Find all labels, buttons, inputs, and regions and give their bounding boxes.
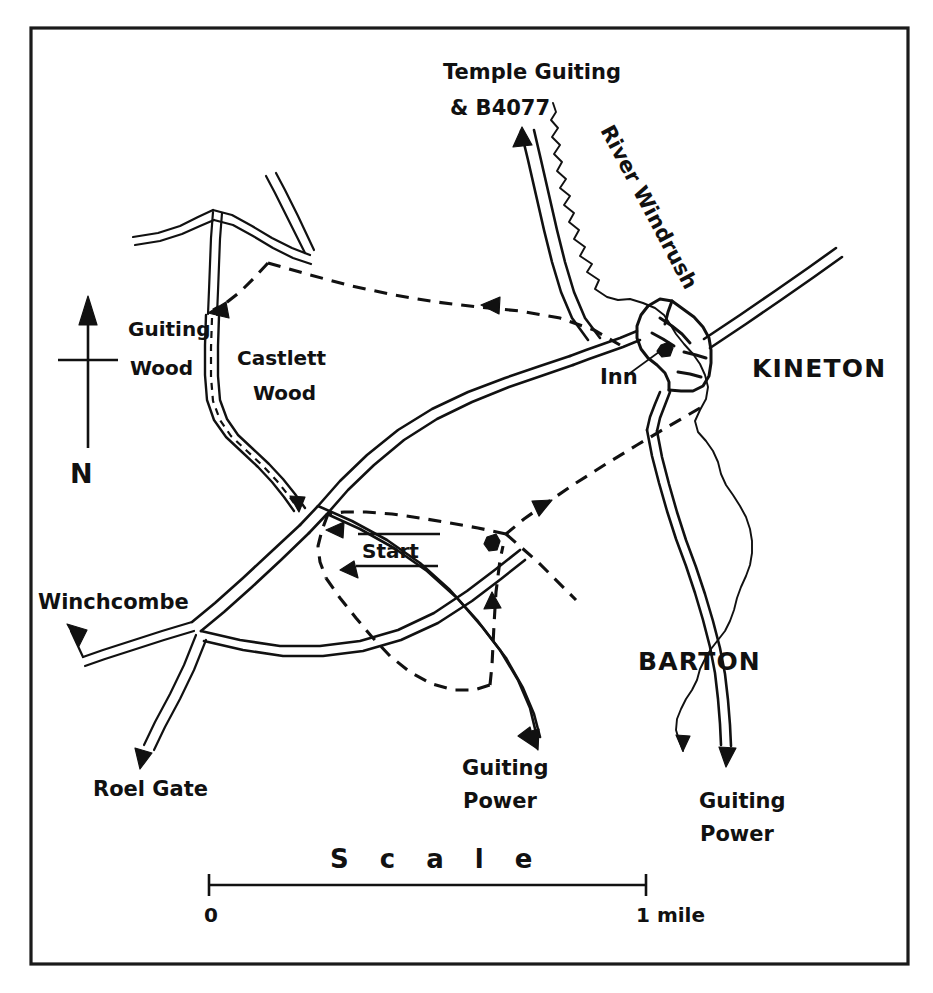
scale-label-zero: 0 bbox=[204, 903, 218, 927]
map-canvas: N Start S c a l e 0 1 mile Temple Guitin… bbox=[0, 0, 933, 993]
label-river-windrush: River Windrush bbox=[596, 121, 703, 293]
label-temple-guiting: Temple Guiting bbox=[443, 60, 621, 84]
start-marker: Start bbox=[356, 534, 440, 566]
route-arrow-start-south bbox=[340, 561, 358, 578]
road-southwest-junction bbox=[67, 525, 536, 769]
label-castlett-wood-line1: Castlett bbox=[237, 346, 327, 370]
label-kineton: KINETON bbox=[752, 354, 886, 383]
road-barton-guiting-power bbox=[647, 430, 736, 767]
road-arrow-guiting-power-se bbox=[719, 747, 736, 767]
hand-drawn-map: N Start S c a l e 0 1 mile Temple Guitin… bbox=[0, 0, 933, 993]
kineton-village-streets bbox=[570, 299, 711, 431]
road-arrow-roel-gate bbox=[135, 748, 152, 769]
map-frame bbox=[31, 28, 908, 964]
label-roel-gate: Roel Gate bbox=[93, 777, 208, 801]
label-b4077: & B4077 bbox=[450, 96, 550, 120]
scale-word: S c a l e bbox=[330, 844, 543, 874]
scale-label-one-mile: 1 mile bbox=[636, 903, 705, 927]
road-northwest-network bbox=[133, 173, 314, 315]
label-guiting-wood-line1: Guiting bbox=[128, 317, 210, 341]
route-arrow-south-loop bbox=[484, 592, 501, 609]
inn-building-marker bbox=[657, 342, 673, 357]
road-kineton-northeast bbox=[704, 248, 842, 348]
label-winchcombe: Winchcombe bbox=[38, 590, 189, 614]
scale-bar: S c a l e 0 1 mile bbox=[204, 844, 705, 927]
label-guiting-wood-line2: Wood bbox=[130, 356, 193, 380]
label-guiting-power-se-line2: Power bbox=[700, 822, 774, 846]
label-inn: Inn bbox=[600, 365, 638, 389]
route-junction-marker bbox=[484, 534, 500, 551]
label-guiting-power-se-line1: Guiting bbox=[699, 789, 786, 813]
route-arrow-to-kineton bbox=[532, 500, 552, 516]
north-label: N bbox=[70, 458, 93, 489]
north-arrowhead bbox=[79, 296, 97, 325]
label-castlett-wood-line2: Wood bbox=[253, 381, 316, 405]
road-central-valley bbox=[300, 356, 573, 533]
label-guiting-power-sw-line1: Guiting bbox=[462, 756, 549, 780]
road-temple-guiting bbox=[513, 127, 600, 340]
start-label: Start bbox=[362, 539, 419, 563]
label-barton: BARTON bbox=[638, 647, 761, 676]
river-arrow-se bbox=[676, 735, 690, 751]
road-arrow-temple-guiting bbox=[513, 127, 532, 147]
route-arrow-north-loop bbox=[481, 297, 500, 314]
label-guiting-power-sw-line2: Power bbox=[463, 789, 537, 813]
route-arrow-start-west bbox=[326, 522, 344, 538]
wood-track bbox=[205, 315, 305, 512]
north-arrow: N bbox=[58, 296, 118, 489]
